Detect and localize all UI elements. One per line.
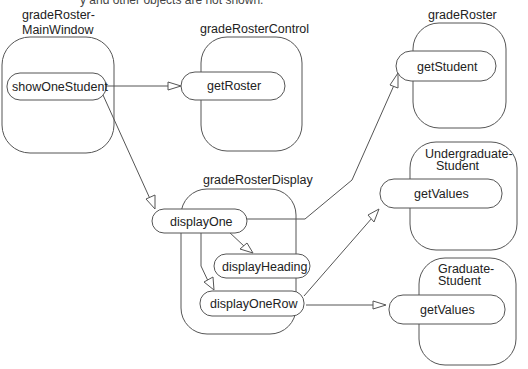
operation-label: displayHeading — [222, 260, 308, 274]
object-title: gradeRosterControl — [200, 22, 309, 36]
operation-displayOneRow[interactable]: displayOneRow — [200, 291, 304, 316]
object-title: gradeRoster — [428, 8, 497, 22]
operation-displayOne[interactable]: displayOne — [152, 209, 247, 233]
operation-displayHeading[interactable]: displayHeading — [214, 254, 310, 278]
object-title: Student — [436, 159, 480, 173]
arrowhead-icon — [390, 73, 398, 88]
operation-label: getStudent — [417, 60, 478, 74]
arrowhead-icon — [168, 82, 181, 90]
operation-label: displayOneRow — [210, 297, 299, 311]
operation-label: displayOne — [170, 215, 233, 229]
arrowhead-icon — [373, 301, 386, 309]
message-displayOneRow-getValuesGrad — [306, 301, 386, 309]
operation-label: getValues — [414, 187, 469, 201]
operation-showOneStudent[interactable]: showOneStudent — [7, 73, 108, 100]
operation-label: showOneStudent — [12, 80, 108, 94]
operation-label: getRoster — [207, 79, 261, 93]
message-showOneStudent-displayOne — [103, 95, 155, 209]
operation-getValues-undergraduate[interactable]: getValues — [380, 179, 502, 208]
operation-getValues-graduate[interactable]: getValues — [389, 295, 505, 324]
object-title: Student — [438, 274, 482, 288]
caption-text: y and other objects are not shown. — [80, 0, 263, 7]
message-displayOneRow-getValuesUgrad — [304, 209, 379, 296]
operation-getStudent[interactable]: getStudent — [396, 51, 496, 81]
message-showOneStudent-getRoster — [106, 82, 181, 90]
operation-getRoster[interactable]: getRoster — [181, 72, 285, 100]
collaboration-diagram: y and other objects are not shown. grade… — [0, 0, 528, 369]
object-title: gradeRosterDisplay — [203, 173, 314, 187]
object-title: MainWindow — [22, 23, 95, 37]
operation-label: getValues — [420, 303, 475, 317]
object-title: gradeRoster- — [22, 8, 95, 22]
arrowhead-icon — [146, 195, 155, 209]
